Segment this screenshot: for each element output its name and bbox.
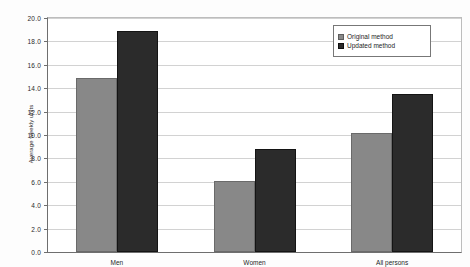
- y-tick-mark: [44, 18, 48, 19]
- y-tick-label: 18.0: [28, 38, 41, 45]
- x-axis-category-label: Women: [214, 259, 296, 266]
- y-tick-label: 12.0: [28, 108, 41, 115]
- y-tick-mark: [44, 88, 48, 89]
- y-tick-label: 10.0: [28, 132, 41, 139]
- y-tick-mark: [44, 158, 48, 159]
- y-tick-mark: [44, 65, 48, 66]
- legend-label: Original method: [347, 33, 393, 40]
- y-tick-label: 0.0: [31, 249, 41, 256]
- bar-updated[interactable]: [117, 31, 158, 252]
- bar-original[interactable]: [76, 78, 117, 252]
- chart-legend: Original methodUpdated method: [333, 25, 431, 57]
- y-tick-mark: [44, 252, 48, 253]
- y-tick-mark: [44, 182, 48, 183]
- bar-group: Women: [214, 18, 296, 252]
- cropped-header-text: [30, 0, 200, 7]
- y-tick-label: 4.0: [31, 202, 41, 209]
- legend-swatch-original-icon: [338, 34, 344, 40]
- bar-group: Men: [76, 18, 158, 252]
- legend-label: Updated method: [347, 42, 395, 49]
- y-tick-label: 8.0: [31, 155, 41, 162]
- y-tick-mark: [44, 41, 48, 42]
- y-tick-label: 20.0: [28, 15, 41, 22]
- y-tick-label: 2.0: [31, 225, 41, 232]
- bar-updated[interactable]: [255, 149, 296, 252]
- y-tick-label: 14.0: [28, 85, 41, 92]
- legend-swatch-updated-icon: [338, 43, 344, 49]
- y-tick-mark: [44, 229, 48, 230]
- chart-page: Average weekly units 20.018.016.014.012.…: [0, 0, 470, 267]
- y-tick-mark: [44, 112, 48, 113]
- bar-original[interactable]: [351, 133, 392, 252]
- x-axis-category-label: All persons: [351, 259, 433, 266]
- y-tick-mark: [44, 205, 48, 206]
- bar-updated[interactable]: [392, 94, 433, 252]
- legend-item[interactable]: Original method: [338, 33, 425, 40]
- legend-item[interactable]: Updated method: [338, 42, 425, 49]
- y-tick-label: 6.0: [31, 178, 41, 185]
- y-tick-label: 16.0: [28, 61, 41, 68]
- y-tick-mark: [44, 135, 48, 136]
- x-axis-category-label: Men: [76, 259, 158, 266]
- bar-original[interactable]: [214, 181, 255, 252]
